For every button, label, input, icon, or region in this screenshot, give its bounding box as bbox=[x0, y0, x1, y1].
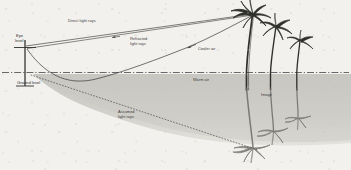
eye-level-label-line2: level bbox=[15, 38, 24, 43]
image-label: Image bbox=[261, 92, 272, 97]
refracted-light-ray[interactable] bbox=[27, 15, 253, 81]
warm-air-label: Warm air bbox=[193, 77, 210, 82]
mirage-diagram-svg: Eye level Ground level Direct light rays… bbox=[0, 0, 351, 170]
refracted-light-rays-label-line2: light rays bbox=[130, 41, 146, 46]
ground-level-label: Ground level bbox=[17, 80, 40, 85]
mirage-pool-shading bbox=[33, 74, 351, 145]
direct-light-rays-label: Direct light rays bbox=[68, 18, 96, 23]
cooler-air-label: Cooler air bbox=[198, 46, 216, 51]
diagram-canvas: Eye level Ground level Direct light rays… bbox=[0, 0, 351, 170]
assumed-light-rays-label-line2: light rays bbox=[118, 114, 134, 119]
